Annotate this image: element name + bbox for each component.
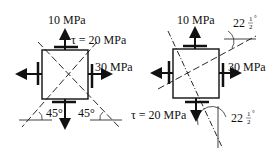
svg-text:22: 22 bbox=[231, 111, 243, 125]
right-label-10mpa: 10 MPa bbox=[177, 13, 215, 27]
right-angle-arc-bottom bbox=[197, 106, 226, 125]
left-angle-label-2: 45° bbox=[78, 106, 95, 120]
left-angle-arc-right bbox=[100, 112, 103, 120]
left-element-square bbox=[42, 50, 88, 99]
svg-text:°: ° bbox=[254, 14, 257, 22]
svg-text:1: 1 bbox=[247, 110, 251, 118]
svg-text:1: 1 bbox=[249, 15, 253, 23]
stress-element-diagram: 10 MPa τ = 20 MPa 30 MPa 45° 45° 10 MPa … bbox=[0, 0, 277, 159]
left-angle-label-1: 45° bbox=[46, 106, 63, 120]
left-label-30mpa: 30 MPa bbox=[95, 60, 133, 74]
left-stress-element: 10 MPa τ = 20 MPa 30 MPa 45° 45° bbox=[17, 13, 133, 128]
svg-text:°: ° bbox=[252, 109, 255, 117]
right-angle-label-top: 22 1 2 ° bbox=[233, 14, 257, 31]
svg-text:2: 2 bbox=[249, 23, 253, 31]
right-label-30mpa: 30 MPa bbox=[228, 60, 266, 74]
right-angle-arc-top bbox=[228, 31, 234, 48]
right-label-shear: τ = 20 MPa bbox=[131, 108, 187, 122]
left-label-10mpa: 10 MPa bbox=[48, 13, 86, 27]
right-element-square bbox=[173, 49, 219, 98]
svg-text:2: 2 bbox=[247, 118, 251, 126]
left-angle-arc-left bbox=[39, 112, 42, 120]
svg-text:22: 22 bbox=[233, 16, 245, 30]
right-stress-element: 10 MPa 30 MPa τ = 20 MPa 22 1 2 ° 22 1 2… bbox=[131, 13, 266, 148]
left-label-shear: τ = 20 MPa bbox=[71, 33, 127, 47]
right-angle-label-bottom: 22 1 2 ° bbox=[231, 109, 255, 126]
